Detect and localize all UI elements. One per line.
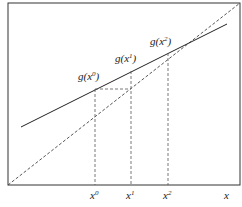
label-g-x1: g(x1) [115,52,137,65]
label-g-x0: g(x0) [78,70,100,83]
label-x2: x2 [162,189,172,201]
label-x0: x0 [89,189,99,201]
g-function-line [21,24,227,127]
fixed-point-diagram: g(x0) g(x1) g(x2) x0 x1 x2 x [0,0,242,207]
identity-line [8,3,240,185]
axis-label-x: x [223,189,229,201]
label-x1: x1 [125,189,134,201]
label-g-x2: g(x2) [150,35,172,48]
